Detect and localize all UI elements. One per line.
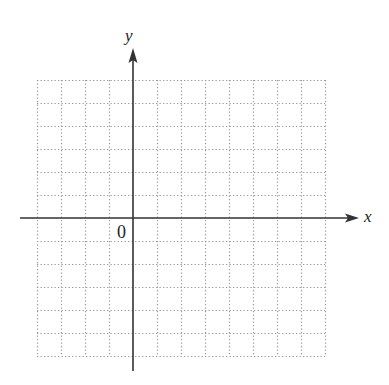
axes — [20, 48, 359, 371]
x-axis-label: x — [364, 208, 372, 225]
origin-label: 0 — [117, 223, 126, 241]
coordinate-plane — [0, 0, 389, 385]
y-axis-label: y — [125, 27, 133, 44]
